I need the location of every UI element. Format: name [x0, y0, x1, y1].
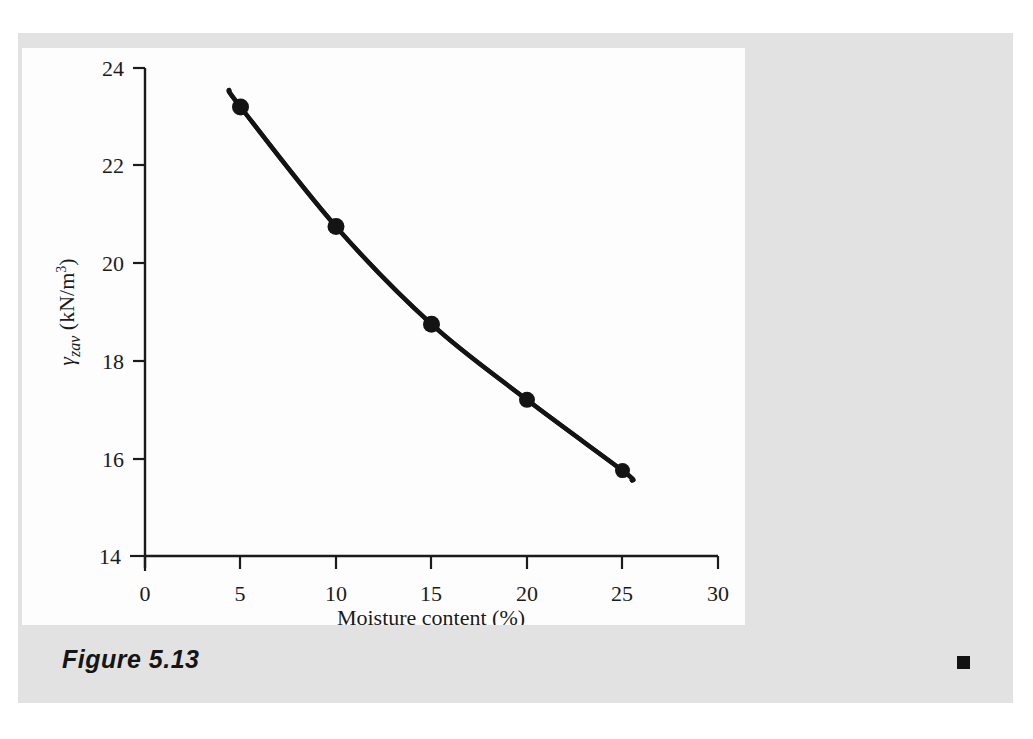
- x-tick-label: 25: [611, 581, 633, 606]
- y-axis-title-subscript: zav: [66, 335, 83, 358]
- svg-text:γzav (kN/m3): γzav (kN/m3): [54, 258, 83, 365]
- y-axis-title-units-close: ): [54, 258, 79, 265]
- y-tick-label: 22: [102, 153, 124, 178]
- data-curve: [229, 90, 633, 480]
- y-axis-title-units: (kN/m: [54, 273, 79, 330]
- x-tick-label: 5: [235, 581, 246, 606]
- y-tick-label: 14: [99, 544, 121, 569]
- x-axis-ticks: [145, 556, 718, 571]
- x-tick-label: 0: [140, 581, 151, 606]
- x-tick-label: 15: [420, 581, 442, 606]
- figure-caption: Figure 5.13: [62, 645, 200, 674]
- chart-svg: 24 22 20 18 16 14: [22, 48, 745, 625]
- y-axis-title-exponent: 3: [54, 266, 69, 273]
- chart-plot-area: 24 22 20 18 16 14: [22, 48, 745, 625]
- data-point-marker: [328, 218, 345, 235]
- y-tick-label: 18: [102, 349, 124, 374]
- y-axis-tick-labels: 24 22 20 18 16 14: [99, 56, 124, 569]
- data-point-marker: [615, 463, 630, 478]
- y-axis-title: γzav (kN/m3): [54, 258, 83, 365]
- x-tick-label: 20: [516, 581, 538, 606]
- data-point-markers: [232, 99, 630, 479]
- data-point-marker: [423, 316, 440, 333]
- y-axis-ticks: [130, 68, 145, 556]
- x-axis-tick-labels: 0 5 10 15 20 25 30: [140, 581, 730, 606]
- y-tick-label: 20: [102, 251, 124, 276]
- x-axis-title: Moisture content (%): [337, 605, 525, 625]
- data-curve-smooth: [229, 90, 633, 480]
- figure-page: 24 22 20 18 16 14: [0, 0, 1033, 739]
- y-tick-label: 16: [102, 447, 124, 472]
- data-point-marker: [519, 392, 535, 408]
- x-tick-label: 30: [707, 581, 729, 606]
- figure-panel: 24 22 20 18 16 14: [22, 48, 745, 625]
- data-point-marker: [232, 99, 249, 116]
- x-tick-label: 10: [325, 581, 347, 606]
- end-of-section-square-icon: [957, 656, 970, 669]
- y-tick-label: 24: [102, 56, 124, 81]
